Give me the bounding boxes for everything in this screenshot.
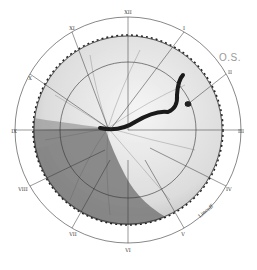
svg-text:VI: VI — [124, 247, 131, 253]
svg-text:V: V — [180, 231, 185, 237]
svg-text:X: X — [28, 75, 32, 81]
svg-text:III: III — [238, 128, 244, 134]
svg-text:XII: XII — [124, 9, 132, 15]
fundus-chart: XII I II III IV V VI VII VIII IX X XI Li… — [0, 0, 257, 270]
svg-text:II: II — [228, 69, 232, 75]
svg-text:VIII: VIII — [17, 186, 28, 192]
svg-text:XI: XI — [69, 25, 75, 31]
svg-text:VII: VII — [68, 231, 77, 237]
eye-label: O.S. — [219, 52, 241, 63]
svg-text:IV: IV — [226, 186, 232, 192]
svg-text:Lincoff: Lincoff — [197, 203, 215, 219]
svg-text:I: I — [183, 25, 185, 31]
svg-text:IX: IX — [11, 128, 17, 134]
